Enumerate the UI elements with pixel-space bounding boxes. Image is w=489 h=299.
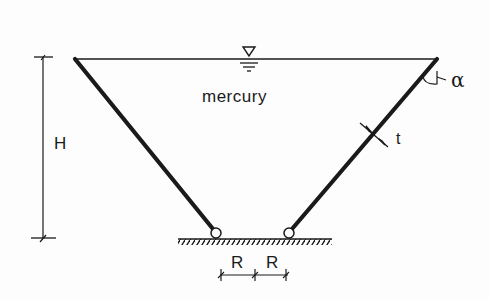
tank-drawing — [0, 0, 489, 299]
right-hinge-icon — [284, 228, 294, 238]
diagram-canvas: mercury H t α R R — [0, 0, 489, 299]
left-hinge-icon — [211, 228, 221, 238]
radius-dimension-line — [218, 269, 289, 281]
height-dimension-line — [31, 55, 56, 242]
right-wall — [292, 59, 437, 229]
thickness-label: t — [396, 131, 400, 147]
height-label: H — [54, 135, 66, 152]
radius-right-label: R — [266, 254, 278, 271]
ground-support — [178, 239, 332, 245]
left-wall — [75, 59, 213, 229]
angle-label: α — [451, 70, 465, 90]
radius-left-label: R — [231, 254, 243, 271]
fluid-label: mercury — [202, 88, 267, 105]
